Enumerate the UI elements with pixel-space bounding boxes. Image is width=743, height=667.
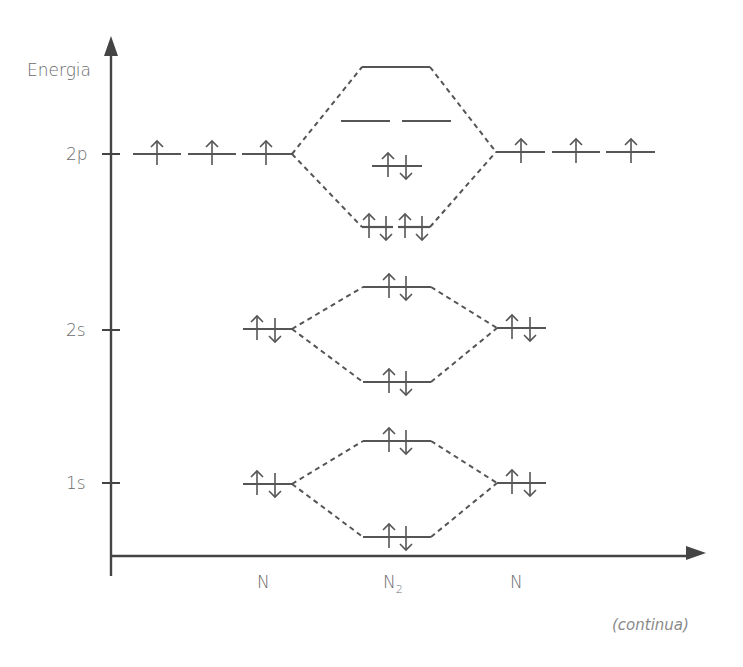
sigma-2p (372, 153, 422, 179)
footer-note: (continua) (612, 616, 689, 634)
sigma-1s (363, 524, 431, 550)
2s-correlation-lines (292, 287, 497, 382)
tick-label-2s: 2s (66, 320, 86, 340)
sigma-star-2s (363, 274, 431, 300)
left-2s-orbital (243, 316, 292, 342)
sigma-star-1s (363, 428, 431, 454)
right-2s-orbital (497, 315, 546, 341)
left-1s-orbital (243, 471, 292, 497)
mo-diagram: Energia 2p 2s 1s N N2 N (continua) (0, 0, 743, 667)
sigma-2s (363, 369, 431, 395)
y-axis (104, 36, 118, 576)
tick-label-1s: 1s (66, 473, 86, 493)
x-label-left-atom: N (257, 572, 270, 592)
y-axis-label: Energia (27, 60, 91, 80)
pi-2p (362, 214, 430, 240)
right-1s-orbital (497, 470, 546, 496)
x-label-right-atom: N (510, 572, 523, 592)
tick-label-2p: 2p (66, 144, 88, 164)
1s-correlation-lines (292, 441, 497, 537)
x-label-molecule: N2 (383, 572, 403, 596)
2p-correlation-lines (292, 67, 496, 227)
